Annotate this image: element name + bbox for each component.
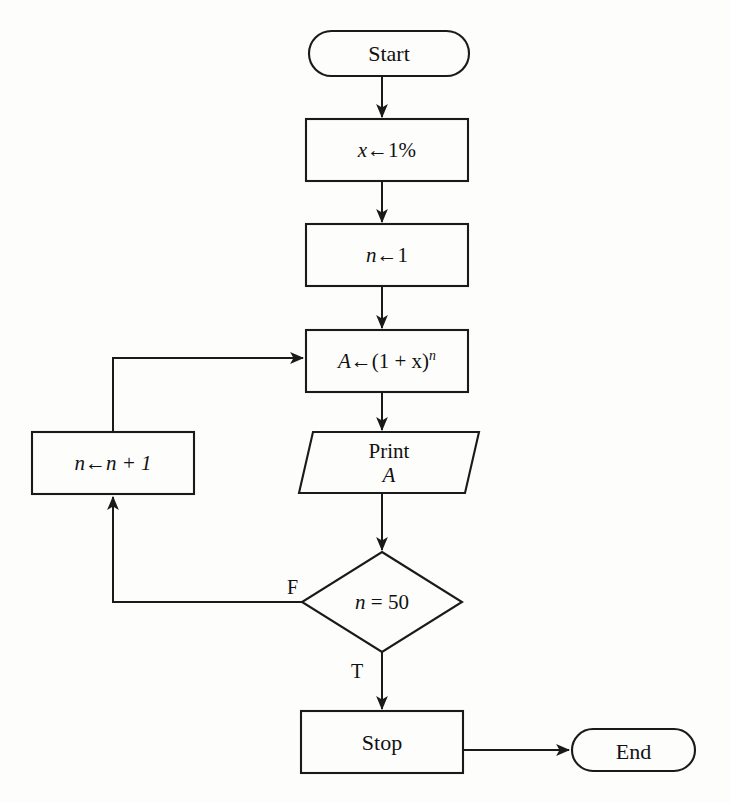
connector-increment-to-compute-a	[113, 358, 303, 432]
node-shape-start[interactable]	[309, 31, 469, 76]
node-shape-compute-a[interactable]	[306, 330, 468, 392]
flowchart-svg	[0, 0, 730, 803]
node-shape-set-x[interactable]	[306, 119, 468, 181]
connector-decision-false-to-increment	[113, 497, 302, 602]
node-shape-end[interactable]	[572, 729, 695, 771]
node-shape-stop[interactable]	[301, 711, 463, 773]
node-shape-increment-n[interactable]	[32, 432, 194, 494]
node-shape-set-n[interactable]	[306, 224, 468, 286]
node-shape-print-a[interactable]	[299, 432, 479, 493]
flowchart-canvas: Start x←1% n←1 A←(1 + x)n PrintA n = 50 …	[0, 0, 730, 803]
node-shape-decision-n[interactable]	[302, 552, 462, 652]
